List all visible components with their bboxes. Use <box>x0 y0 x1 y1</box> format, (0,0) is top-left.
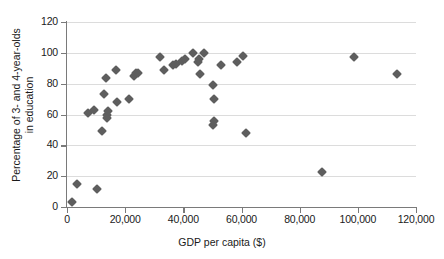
y-tick <box>61 176 66 177</box>
y-tick <box>61 53 66 54</box>
data-point <box>159 65 169 75</box>
y-tick-label: 0 <box>24 201 58 212</box>
plot-area <box>67 22 416 207</box>
y-tick <box>61 207 66 208</box>
data-point <box>155 53 165 63</box>
x-tick-label: 60,000 <box>212 214 272 225</box>
y-axis-title-line1: Percentage of 3- and 4-year-olds <box>10 12 23 198</box>
x-tick-label: 0 <box>37 214 97 225</box>
y-axis-title: Percentage of 3- and 4-year-olds in educ… <box>10 12 36 198</box>
y-tick <box>61 115 66 116</box>
data-point <box>101 73 111 83</box>
data-point <box>209 94 219 104</box>
x-tick-label: 100,000 <box>328 214 388 225</box>
scatter-chart-figure: 020406080100120 020,00040,00060,00080,00… <box>0 0 444 259</box>
data-point <box>317 167 327 177</box>
y-tick <box>61 84 66 85</box>
data-point <box>241 128 251 138</box>
data-point <box>98 127 108 137</box>
data-point <box>99 90 109 100</box>
y-tick <box>61 22 66 23</box>
data-point <box>349 53 359 63</box>
data-point <box>112 97 122 107</box>
x-tick-label: 40,000 <box>153 214 213 225</box>
data-point <box>92 184 102 194</box>
data-point <box>111 65 121 75</box>
data-point <box>392 69 402 79</box>
data-point <box>124 94 134 104</box>
data-point <box>196 69 206 79</box>
x-tick-label: 80,000 <box>270 214 330 225</box>
x-tick-label: 20,000 <box>95 214 155 225</box>
x-tick-label: 120,000 <box>386 214 444 225</box>
data-point <box>73 179 83 189</box>
data-point <box>67 197 77 207</box>
data-point <box>216 60 226 70</box>
data-point <box>208 80 218 90</box>
y-axis-title-line2: in education <box>23 12 36 198</box>
y-tick <box>61 145 66 146</box>
x-axis-title: GDP per capita ($) <box>0 236 444 248</box>
